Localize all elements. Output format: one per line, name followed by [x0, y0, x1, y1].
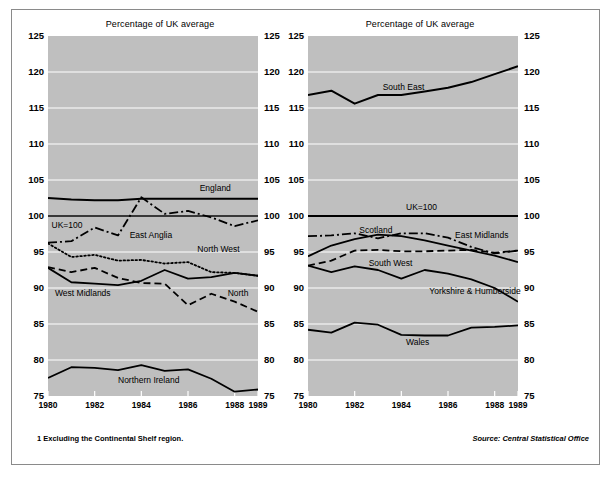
y-tick-label: 80: [264, 355, 275, 365]
y-tick-label: 95: [33, 247, 44, 257]
y-tick-label: 85: [264, 319, 275, 329]
x-tick-label: 1982: [85, 400, 104, 410]
series-line: [48, 268, 258, 285]
series-label-yorkshire-humberside: Yorkshire & Humberside: [429, 286, 520, 296]
series-label-northern-ireland: Northern Ireland: [118, 375, 179, 385]
x-tick-label: 1984: [392, 400, 411, 410]
y-tick-label: 90: [33, 283, 44, 293]
y-tick-label: 90: [524, 283, 535, 293]
y-tick-label: 115: [264, 103, 279, 113]
series-label-south-west: South West: [369, 258, 413, 268]
series-label-england: England: [200, 183, 231, 193]
y-tick-label: 105: [524, 175, 540, 185]
y-tick-label: 80: [293, 355, 304, 365]
x-tick-label: 1982: [345, 400, 364, 410]
y-tick-label: 95: [264, 247, 275, 257]
series-line: [308, 266, 518, 302]
x-tick-label: 1986: [179, 400, 198, 410]
series-label-west-midlands: West Midlands: [55, 288, 111, 298]
x-tick-label: 1980: [299, 400, 318, 410]
x-tick-label: 1988: [225, 400, 244, 410]
y-tick-label: 120: [264, 67, 280, 77]
x-tick-label: 1988: [485, 400, 504, 410]
y-tick-label: 95: [293, 247, 304, 257]
series-label-wales: Wales: [406, 337, 429, 347]
x-tick-label: 1984: [132, 400, 151, 410]
y-tick-label: 120: [28, 67, 44, 77]
y-tick-label: 115: [29, 103, 44, 113]
y-tick-label: 85: [293, 319, 304, 329]
series-label-scotland: Scotland: [359, 225, 392, 235]
chart-title-right: Percentage of UK average: [320, 19, 520, 29]
series-label-uk-100: UK=100: [406, 202, 437, 212]
y-tick-label: 105: [28, 175, 44, 185]
y-tick-label: 90: [264, 283, 275, 293]
y-tick-label: 100: [288, 211, 304, 221]
series-label-east-anglia: East Anglia: [130, 230, 173, 240]
plot-svg-left: [48, 36, 258, 396]
source-text: Source: Central Statistical Office: [472, 434, 589, 443]
y-tick-label: 80: [33, 355, 44, 365]
y-tick-label: 110: [524, 139, 539, 149]
x-tick-label: 1986: [439, 400, 458, 410]
series-label-east-midlands: East Midlands: [455, 230, 508, 240]
series-label-north: North: [228, 288, 249, 298]
y-tick-label: 105: [264, 175, 280, 185]
series-label-uk-100: UK=100: [52, 220, 83, 230]
x-tick-label: 1989: [509, 400, 528, 410]
y-tick-label: 95: [524, 247, 535, 257]
y-tick-label: 110: [29, 139, 44, 149]
y-tick-label: 85: [33, 319, 44, 329]
series-label-north-west: North West: [197, 244, 239, 254]
y-tick-label: 125: [264, 31, 280, 41]
y-tick-label: 105: [288, 175, 304, 185]
y-tick-label: 125: [524, 31, 540, 41]
y-tick-label: 125: [28, 31, 44, 41]
y-tick-label: 100: [264, 211, 280, 221]
plot-area-left: [48, 36, 258, 396]
y-tick-label: 115: [524, 103, 539, 113]
y-tick-label: 100: [28, 211, 44, 221]
series-line: [48, 198, 258, 200]
footnote-text: 1 Excluding the Continental Shelf region…: [37, 434, 183, 443]
y-tick-label: 80: [524, 355, 535, 365]
x-tick-label: 1989: [249, 400, 268, 410]
y-tick-label: 110: [264, 139, 279, 149]
y-tick-label: 85: [524, 319, 535, 329]
y-tick-label: 125: [288, 31, 304, 41]
y-tick-label: 120: [524, 67, 540, 77]
y-tick-label: 120: [288, 67, 304, 77]
series-label-south-east: South East: [383, 82, 425, 92]
y-tick-label: 90: [293, 283, 304, 293]
y-tick-label: 100: [524, 211, 540, 221]
x-tick-label: 1980: [39, 400, 58, 410]
figure-root: Percentage of UK average 758085909510010…: [0, 0, 611, 480]
chart-title-left: Percentage of UK average: [60, 19, 260, 29]
y-tick-label: 110: [289, 139, 304, 149]
y-tick-label: 115: [289, 103, 304, 113]
